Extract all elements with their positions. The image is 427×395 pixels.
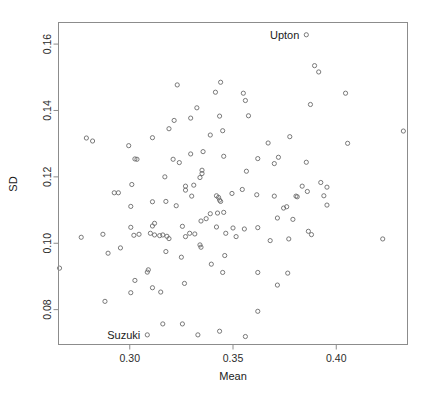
x-axis-tick-label: 0.35 xyxy=(223,352,244,364)
y-axis-title: SD xyxy=(7,176,19,191)
scatter-plot-canvas: 0.300.350.400.080.100.120.140.16 UptonSu… xyxy=(0,0,427,395)
x-axis-title: Mean xyxy=(219,370,247,382)
point-label-upton: Upton xyxy=(270,29,299,41)
y-axis-tick-label: 0.08 xyxy=(41,299,53,320)
y-axis-tick-label: 0.14 xyxy=(41,100,53,121)
x-axis-tick-label: 0.30 xyxy=(120,352,141,364)
point-label-suzuki: Suzuki xyxy=(107,329,140,341)
x-axis-tick-label: 0.40 xyxy=(326,352,347,364)
scatter-plot-figure: 0.300.350.400.080.100.120.140.16 UptonSu… xyxy=(0,0,427,395)
plot-background xyxy=(0,0,427,395)
y-axis-tick-label: 0.16 xyxy=(41,34,53,55)
y-axis-tick-label: 0.10 xyxy=(41,233,53,254)
y-axis-tick-label: 0.12 xyxy=(41,166,53,187)
